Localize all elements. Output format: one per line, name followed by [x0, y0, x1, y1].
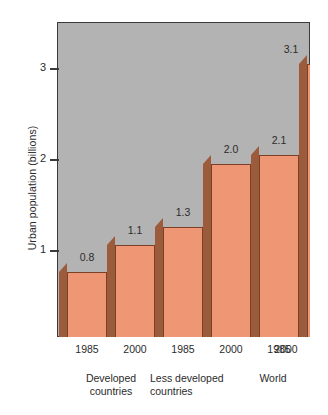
bar-front-face: [163, 227, 203, 337]
bar-front-face: [259, 155, 299, 337]
bar-front-face: [211, 164, 251, 337]
bar-top-bevel: [251, 146, 259, 155]
bar-lessdeveloped-1985[interactable]: [155, 218, 203, 337]
bar-value-label-lessdeveloped-1985: 1.3: [163, 207, 203, 218]
bars-layer: [57, 22, 310, 337]
x-label-lessdeveloped-2000: 2000: [211, 344, 251, 355]
x-label-lessdeveloped-1985: 1985: [163, 344, 203, 355]
bar-world-1985[interactable]: [251, 146, 299, 337]
group-label-line-1: World: [238, 372, 308, 385]
bar-top-bevel: [203, 155, 211, 164]
bar-top-bevel: [107, 236, 115, 245]
group-label-world: World: [238, 372, 308, 385]
bar-top-bevel: [299, 55, 307, 64]
bar-front-face: [115, 245, 155, 337]
bar-value-label-world-1985: 2.1: [259, 135, 299, 146]
bar-value-label-developed-1985: 0.8: [67, 252, 107, 263]
group-label-line-1: Developed: [64, 372, 158, 385]
bar-lessdeveloped-2000[interactable]: [203, 155, 251, 337]
bar-front-face: [307, 64, 310, 337]
bar-chart-figure: Urban population (billions) 3 2 1: [0, 0, 328, 415]
y-tick-label-1: 1: [28, 244, 46, 255]
group-label-line-2: countries: [150, 385, 260, 398]
group-label-developed-countries: Developed countries: [64, 372, 158, 397]
bar-top-bevel: [59, 263, 67, 272]
bar-value-label-lessdeveloped-2000: 2.0: [211, 144, 251, 155]
group-label-line-2: countries: [64, 385, 158, 398]
bar-value-label-world-2000: 3.1: [271, 44, 311, 55]
y-tick-label-3: 3: [28, 62, 46, 73]
bar-top-bevel: [155, 218, 163, 227]
x-label-world-2000: 2000: [266, 344, 306, 355]
bar-world-2000[interactable]: [299, 55, 310, 337]
bar-front-face: [67, 272, 107, 337]
bar-developed-2000[interactable]: [107, 236, 155, 337]
bar-value-label-developed-2000: 1.1: [115, 225, 155, 236]
x-label-developed-1985: 1985: [67, 344, 107, 355]
x-label-developed-2000: 2000: [115, 344, 155, 355]
bar-developed-1985[interactable]: [59, 263, 107, 337]
y-tick-label-2: 2: [28, 153, 46, 164]
